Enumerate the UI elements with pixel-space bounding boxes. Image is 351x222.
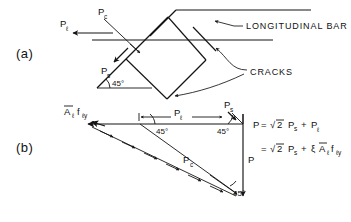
eq2-term2-sub1: ℓ: [327, 149, 330, 156]
pl-label-b: P ℓ: [174, 107, 183, 121]
ps-label-a: P s: [101, 65, 111, 79]
eq2-term2: A: [319, 143, 326, 154]
eq1-plus: +: [301, 119, 307, 130]
eq2-term2-sub2: ℓy: [336, 149, 342, 157]
longitudinal-bar-label: LONGITUDINAL BAR: [246, 21, 348, 31]
angle-arc-b-bottom: [230, 181, 236, 186]
resultant-p-label: P: [248, 154, 254, 165]
eq2-term1-sub: s: [294, 149, 298, 156]
pl-label-b-sub: ℓ: [180, 114, 183, 121]
eq2-radical: √: [270, 143, 276, 154]
equation-line-1: P = √ 2 P s + P ℓ: [253, 119, 320, 133]
eq1-equals: =: [261, 119, 267, 130]
steel-force-a-sub: ℓ: [72, 112, 75, 119]
ps-label-a-sub: s: [107, 72, 111, 79]
angle-label-b-right: 45°: [217, 127, 229, 136]
equations-group: P = √ 2 P s + P ℓ = √ 2 P s + ξ: [253, 119, 342, 157]
eq1-radicand: 2: [277, 119, 282, 130]
eq1-term1-sub: s: [294, 125, 298, 132]
eq2-plus: +: [301, 143, 307, 154]
pc-label-b: P c: [183, 154, 194, 168]
steel-force-a: A: [64, 106, 71, 117]
part-b-group: (b): [16, 99, 254, 198]
pc-force-arrowstem: [130, 44, 140, 53]
crack-line-2: [167, 60, 206, 99]
dash-arrow-4: [166, 164, 179, 170]
pc-dashed-guide: [92, 127, 236, 196]
steel-force-label-b: A ℓ f ℓy: [64, 106, 88, 120]
eq1-radical: √: [270, 119, 276, 130]
ps-label-b-sub: s: [230, 106, 234, 113]
ps-label-b: P s: [224, 99, 234, 113]
part-a-label: (a): [16, 46, 33, 61]
steel-force-f: f: [77, 106, 80, 117]
crack-line-4: [193, 27, 216, 51]
angle-arc-a: [106, 79, 110, 88]
crack-line-1: [126, 59, 167, 99]
eq2-equals: =: [261, 143, 267, 154]
angle-arc-b-left: [150, 114, 155, 124]
crack-plane-upper: [150, 10, 176, 36]
dash-arrow-1: [100, 131, 113, 137]
angle-label-b-left: 45°: [156, 127, 168, 136]
longitudinal-bar-leader: [215, 21, 234, 26]
figure-page: (a): [0, 0, 351, 222]
dash-arrow-3: [144, 153, 157, 159]
crack-line-3: [168, 17, 206, 60]
eq2-term2-mid: f: [331, 143, 334, 154]
cracks-leader-upper: [216, 48, 247, 70]
eq1-term2-sub: ℓ: [317, 126, 320, 133]
part-b-label: (b): [16, 140, 33, 155]
part-a-group: (a): [16, 6, 348, 99]
pl-label-a-sub: ℓ: [66, 25, 69, 32]
angle-label-b-bottom: 45°: [233, 189, 245, 198]
eq1-lhs: P: [253, 119, 259, 130]
angle-label-a: 45°: [112, 79, 124, 88]
steel-force-f-sub: ℓy: [82, 112, 88, 120]
equation-line-2: = √ 2 P s + ξ A ℓ f ℓy: [261, 143, 342, 157]
eq2-radicand: 2: [277, 143, 282, 154]
pc-label-b-main: P: [183, 154, 189, 165]
eq2-xi: ξ: [311, 143, 316, 154]
dash-arrow-2: [122, 142, 135, 148]
engineering-figure: (a): [0, 0, 351, 222]
pl-label-a: P ℓ: [60, 18, 69, 32]
pc-label-a: P c: [98, 6, 108, 20]
cracks-leader-lower: [175, 74, 244, 96]
triangle-corner-b: [232, 113, 243, 124]
cracks-label: CRACKS: [250, 67, 293, 77]
pc-label-a-sub: c: [104, 13, 108, 20]
